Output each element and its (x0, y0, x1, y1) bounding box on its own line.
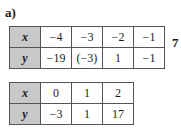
part-label: a) (5, 5, 16, 21)
table-row-y: y −3 1 17 (10, 104, 134, 125)
table-row-x: x 0 1 2 (10, 83, 134, 104)
table-cell: 0 (41, 83, 72, 104)
table-cell: 17 (103, 104, 134, 125)
side-number: 7 (172, 35, 179, 51)
table-row-y: y −19 (−3) 1 −1 (10, 48, 165, 69)
table-row-x: x −4 −3 −2 −1 (10, 27, 165, 48)
table-cell: −1 (134, 27, 165, 48)
table-cell: −3 (72, 27, 103, 48)
table-cell: −4 (41, 27, 72, 48)
table-cell: 1 (72, 104, 103, 125)
value-table-1: x −4 −3 −2 −1 y −19 (−3) 1 −1 (9, 26, 165, 69)
table-cell: −1 (134, 48, 165, 69)
table-cell: −3 (41, 104, 72, 125)
table-cell: 2 (103, 83, 134, 104)
value-table-2: x 0 1 2 y −3 1 17 (9, 82, 134, 125)
row-header-y: y (10, 104, 41, 125)
table-cell: (−3) (72, 48, 103, 69)
table-cell: 1 (72, 83, 103, 104)
table-cell: −2 (103, 27, 134, 48)
row-header-x: x (10, 27, 41, 48)
table-cell: 1 (103, 48, 134, 69)
table-cell: −19 (41, 48, 72, 69)
row-header-x: x (10, 83, 41, 104)
row-header-y: y (10, 48, 41, 69)
